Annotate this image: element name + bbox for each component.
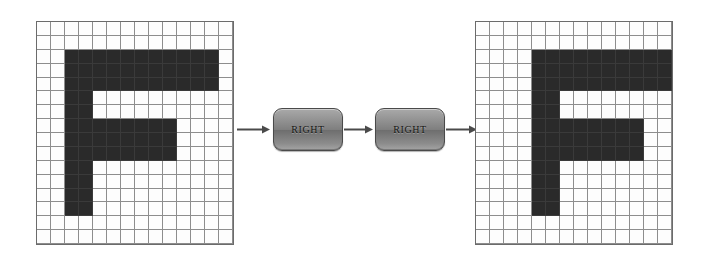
grid-cell[interactable] — [37, 105, 51, 119]
grid-cell[interactable] — [177, 105, 191, 119]
grid-cell[interactable] — [588, 230, 602, 244]
grid-cell[interactable] — [219, 216, 233, 230]
grid-cell[interactable] — [630, 202, 644, 216]
grid-cell[interactable] — [107, 91, 121, 105]
grid-cell[interactable] — [490, 78, 504, 92]
grid-cell[interactable] — [602, 230, 616, 244]
grid-cell[interactable] — [37, 119, 51, 133]
grid-cell[interactable] — [532, 91, 546, 105]
grid-cell[interactable] — [177, 147, 191, 161]
grid-cell[interactable] — [93, 22, 107, 36]
right-operation-2[interactable]: RIGHT — [375, 108, 445, 151]
grid-cell[interactable] — [574, 78, 588, 92]
grid-cell[interactable] — [476, 133, 490, 147]
grid-cell[interactable] — [79, 91, 93, 105]
grid-cell[interactable] — [149, 230, 163, 244]
grid-cell[interactable] — [51, 147, 65, 161]
grid-cell[interactable] — [490, 147, 504, 161]
grid-cell[interactable] — [644, 50, 658, 64]
grid-cell[interactable] — [163, 91, 177, 105]
grid-cell[interactable] — [504, 147, 518, 161]
grid-cell[interactable] — [532, 36, 546, 50]
grid-cell[interactable] — [219, 230, 233, 244]
grid-cell[interactable] — [135, 189, 149, 203]
grid-cell[interactable] — [504, 91, 518, 105]
grid-cell[interactable] — [51, 216, 65, 230]
grid-cell[interactable] — [121, 216, 135, 230]
grid-cell[interactable] — [121, 22, 135, 36]
grid-cell[interactable] — [504, 22, 518, 36]
grid-cell[interactable] — [219, 119, 233, 133]
grid-cell[interactable] — [476, 50, 490, 64]
grid-cell[interactable] — [177, 22, 191, 36]
grid-cell[interactable] — [574, 161, 588, 175]
grid-cell[interactable] — [93, 133, 107, 147]
grid-cell[interactable] — [205, 91, 219, 105]
grid-cell[interactable] — [616, 105, 630, 119]
grid-cell[interactable] — [121, 161, 135, 175]
grid-cell[interactable] — [518, 50, 532, 64]
grid-cell[interactable] — [560, 230, 574, 244]
grid-cell[interactable] — [79, 147, 93, 161]
grid-cell[interactable] — [546, 202, 560, 216]
grid-cell[interactable] — [644, 161, 658, 175]
grid-cell[interactable] — [205, 36, 219, 50]
grid-cell[interactable] — [588, 119, 602, 133]
grid-cell[interactable] — [163, 22, 177, 36]
grid-cell[interactable] — [177, 133, 191, 147]
grid-cell[interactable] — [630, 119, 644, 133]
grid-cell[interactable] — [532, 202, 546, 216]
grid-cell[interactable] — [476, 216, 490, 230]
grid-cell[interactable] — [65, 216, 79, 230]
grid-cell[interactable] — [476, 161, 490, 175]
grid-cell[interactable] — [602, 147, 616, 161]
grid-cell[interactable] — [658, 161, 672, 175]
grid-cell[interactable] — [574, 91, 588, 105]
grid-cell[interactable] — [191, 189, 205, 203]
grid-cell[interactable] — [191, 202, 205, 216]
grid-cell[interactable] — [149, 147, 163, 161]
grid-cell[interactable] — [630, 50, 644, 64]
grid-cell[interactable] — [149, 105, 163, 119]
grid-cell[interactable] — [177, 202, 191, 216]
grid-cell[interactable] — [135, 161, 149, 175]
grid-cell[interactable] — [630, 91, 644, 105]
grid-cell[interactable] — [163, 161, 177, 175]
grid-cell[interactable] — [65, 105, 79, 119]
grid-cell[interactable] — [630, 230, 644, 244]
grid-cell[interactable] — [658, 50, 672, 64]
grid-cell[interactable] — [532, 119, 546, 133]
grid-cell[interactable] — [560, 202, 574, 216]
grid-cell[interactable] — [518, 189, 532, 203]
grid-cell[interactable] — [163, 147, 177, 161]
grid-cell[interactable] — [37, 133, 51, 147]
grid-cell[interactable] — [107, 147, 121, 161]
grid-cell[interactable] — [630, 64, 644, 78]
grid-cell[interactable] — [476, 105, 490, 119]
grid-cell[interactable] — [135, 22, 149, 36]
grid-cell[interactable] — [37, 36, 51, 50]
grid-cell[interactable] — [588, 189, 602, 203]
grid-cell[interactable] — [588, 175, 602, 189]
grid-cell[interactable] — [560, 133, 574, 147]
grid-cell[interactable] — [490, 64, 504, 78]
grid-cell[interactable] — [205, 78, 219, 92]
grid-cell[interactable] — [51, 189, 65, 203]
grid-cell[interactable] — [93, 105, 107, 119]
grid-cell[interactable] — [219, 91, 233, 105]
grid-cell[interactable] — [93, 230, 107, 244]
grid-cell[interactable] — [51, 36, 65, 50]
grid-cell[interactable] — [65, 64, 79, 78]
grid-cell[interactable] — [107, 175, 121, 189]
grid-cell[interactable] — [504, 230, 518, 244]
grid-cell[interactable] — [79, 119, 93, 133]
grid-cell[interactable] — [51, 64, 65, 78]
grid-cell[interactable] — [518, 161, 532, 175]
grid-cell[interactable] — [121, 91, 135, 105]
grid-cell[interactable] — [630, 189, 644, 203]
grid-cell[interactable] — [121, 119, 135, 133]
grid-cell[interactable] — [205, 175, 219, 189]
grid-cell[interactable] — [219, 133, 233, 147]
grid-cell[interactable] — [37, 78, 51, 92]
grid-cell[interactable] — [658, 36, 672, 50]
